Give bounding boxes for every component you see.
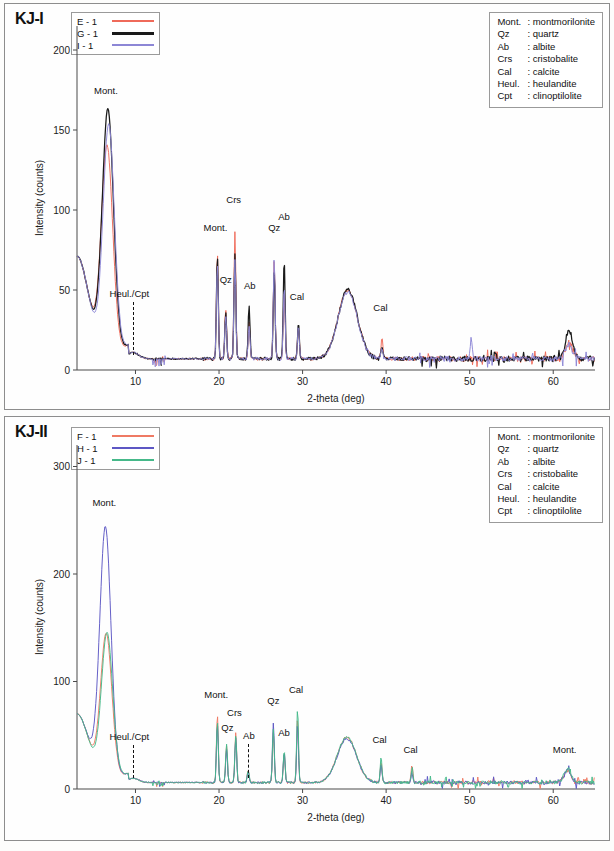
data-series-line [77,632,594,788]
x-tick-label: 10 [130,795,142,806]
x-tick-label: 30 [297,376,309,387]
peak-label-heulcpt: Heul./Cpt [110,288,150,299]
axis-lines [77,26,595,370]
y-tick-label: 0 [64,784,70,795]
chart-svg: 0501001502001020304050602-theta (deg)Int… [5,4,614,411]
peak-leader-dashed-line [248,744,249,779]
y-axis-title: Intensity (counts) [34,160,45,236]
peak-label-ab: Ab [278,727,290,738]
peak-label-mont: Mont. [204,689,228,700]
chart-svg: 01002003001020304050602-theta (deg)Inten… [5,417,614,842]
peak-leader-dashed-line [133,302,134,355]
x-tick-label: 50 [464,376,476,387]
peak-label-crs: Crs [227,707,242,718]
peak-label-ab: Ab [244,280,256,291]
y-tick-label: 100 [53,676,70,687]
peak-label-cal: Cal [373,302,387,313]
peak-label-cal: Cal [403,744,417,755]
peak-label-ab: Ab [243,730,255,741]
peak-label-crs: Crs [226,194,241,205]
y-tick-label: 300 [53,461,70,472]
y-tick-label: 200 [53,45,70,56]
x-axis-title: 2-theta (deg) [307,393,364,404]
x-tick-label: 30 [297,795,309,806]
plot-area-kj-i: 0501001502001020304050602-theta (deg)Int… [5,4,614,411]
peak-label-mont: Mont. [94,85,118,96]
x-tick-label: 60 [548,795,560,806]
data-series-line [77,124,594,368]
plot-area-kj-ii: 01002003001020304050602-theta (deg)Inten… [5,417,614,842]
x-tick-label: 20 [213,376,225,387]
y-tick-label: 200 [53,569,70,580]
x-tick-label: 40 [381,795,393,806]
peak-label-ab: Ab [278,211,290,222]
peak-leader-dashed-line [133,745,134,779]
data-series-line [77,145,594,367]
x-tick-label: 50 [464,795,476,806]
y-tick-label: 150 [53,125,70,136]
data-series-line [77,527,594,789]
peak-label-mont: Mont. [553,744,577,755]
y-tick-label: 100 [53,205,70,216]
peak-label-qz: Qz [221,722,233,733]
peak-label-cal: Cal [289,684,303,695]
x-tick-label: 10 [130,376,142,387]
x-axis-title: 2-theta (deg) [307,812,364,823]
peak-label-qz: Qz [268,222,280,233]
x-tick-label: 40 [381,376,393,387]
y-tick-label: 50 [59,285,71,296]
y-tick-label: 0 [64,365,70,376]
peak-label-mont: Mont. [92,497,116,508]
peak-label-mont: Mont. [204,222,228,233]
peak-label-cal: Cal [290,291,304,302]
xrd-panel-kj-ii: KJ-II F - 1H - 1J - 1 Mont.: montmorilon… [4,416,610,841]
axis-lines [77,445,595,789]
peak-label-heulcpt: Heul./Cpt [110,731,150,742]
peak-label-qz: Qz [267,695,279,706]
x-tick-label: 60 [548,376,560,387]
peak-label-cal: Cal [372,734,386,745]
xrd-panel-kj-i: KJ-I E - 1G - 1I - 1 Mont.: montmoriloni… [4,3,610,410]
y-axis-title: Intensity (counts) [34,579,45,655]
peak-label-qz: Qz [220,274,232,285]
data-series-line [77,633,594,788]
x-tick-label: 20 [213,795,225,806]
